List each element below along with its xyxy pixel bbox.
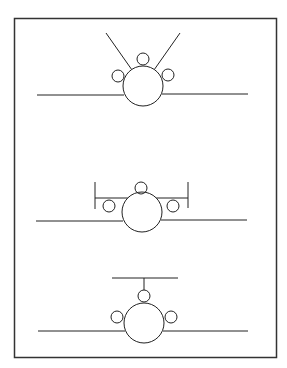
left-engine-circle [111,311,123,323]
left-engine-circle [112,70,124,82]
right-engine-circle [162,69,174,81]
left-engine-circle [103,200,115,212]
right-engine-circle [167,200,179,212]
fuselage-circle [123,66,163,106]
right-engine-circle [165,311,177,323]
v-tail-left-surface [106,33,132,70]
v-tail-configuration [37,33,248,106]
endplate-tail-configuration [36,182,247,232]
t-tail-configuration [38,278,248,343]
center-engine-circle [137,53,149,65]
tail-configurations-diagram [0,0,287,368]
fuselage-circle [122,192,162,232]
v-tail-right-surface [154,33,180,70]
fuselage-circle [124,303,164,343]
center-engine-circle [138,290,150,302]
